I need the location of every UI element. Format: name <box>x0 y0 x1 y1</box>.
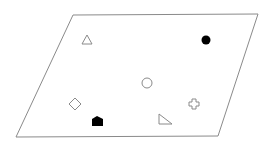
parallelogram-plane <box>16 14 258 137</box>
diagram-canvas <box>0 0 273 147</box>
circle-filled-icon <box>202 36 211 45</box>
